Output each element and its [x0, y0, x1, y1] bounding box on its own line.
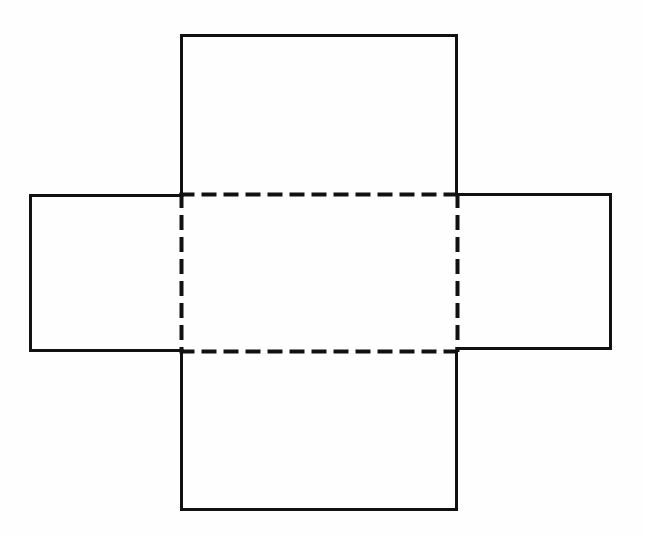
left-flap-outline [31, 196, 183, 351]
box-net-diagram: Net of a rectangular box (cross-shaped u… [0, 0, 645, 537]
figure-canvas: Net of a rectangular box (cross-shaped u… [0, 0, 645, 537]
right-flap-outline [457, 195, 611, 349]
bottom-flap-outline [182, 352, 457, 510]
top-flap-outline [182, 36, 457, 195]
